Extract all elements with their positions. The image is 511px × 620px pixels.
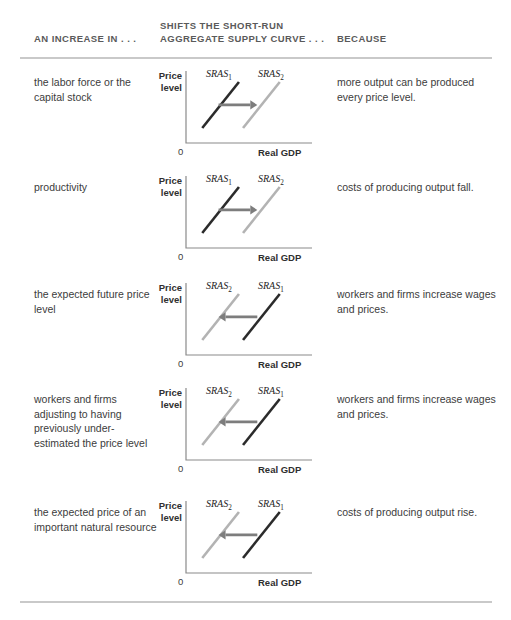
y-axis-label: Pricelevel <box>140 500 182 523</box>
because-cell: workers and firms increase wages and pri… <box>337 287 502 316</box>
header-col-shifts: SHIFTS THE SHORT-RUN AGGREGATE SUPPLY CU… <box>160 20 335 45</box>
curve-label-right: SRAS1 <box>258 498 284 512</box>
diagram-cell: Pricelevel0Real GDPSRAS1SRAS2 <box>140 67 325 167</box>
chart-axes <box>186 388 312 460</box>
curve-label-left: SRAS1 <box>206 68 232 82</box>
chart-axes <box>186 71 312 143</box>
y-axis-label: Pricelevel <box>140 282 182 305</box>
curve-label-right: SRAS2 <box>258 173 284 187</box>
diagram-cell: Pricelevel0Real GDPSRAS2SRAS1 <box>140 279 325 379</box>
shift-arrow <box>219 312 258 321</box>
y-axis-label: Pricelevel <box>140 387 182 410</box>
shift-arrow <box>219 530 258 539</box>
table-page: AN INCREASE IN . . . SHIFTS THE SHORT-RU… <box>0 0 511 620</box>
diagram-cell: Pricelevel0Real GDPSRAS1SRAS2 <box>140 172 325 272</box>
chart-axes <box>186 501 312 573</box>
curve-label-right: SRAS2 <box>258 68 284 82</box>
shift-arrow <box>219 417 258 426</box>
x-axis-label: Real GDP <box>258 464 301 475</box>
because-cell: more output can be produced every price … <box>337 75 502 104</box>
y-axis-label: Pricelevel <box>140 70 182 93</box>
header-divider <box>20 57 492 59</box>
header-col-increase: AN INCREASE IN . . . <box>34 33 154 46</box>
origin-label: 0 <box>178 576 183 587</box>
y-axis-label: Pricelevel <box>140 175 182 198</box>
curve-label-left: SRAS2 <box>206 280 232 294</box>
x-axis-label: Real GDP <box>258 252 301 263</box>
chart-axes <box>186 176 312 248</box>
curve-label-left: SRAS2 <box>206 385 232 399</box>
table-header: AN INCREASE IN . . . SHIFTS THE SHORT-RU… <box>0 0 511 58</box>
because-cell: costs of producing output fall. <box>337 180 502 195</box>
origin-label: 0 <box>178 251 183 262</box>
curve-label-left: SRAS2 <box>206 498 232 512</box>
because-cell: workers and firms increase wages and pri… <box>337 392 502 421</box>
chart-axes <box>186 283 312 355</box>
x-axis-label: Real GDP <box>258 359 301 370</box>
footer-divider <box>20 601 492 603</box>
curve-label-left: SRAS1 <box>206 173 232 187</box>
x-axis-label: Real GDP <box>258 577 301 588</box>
diagram-cell: Pricelevel0Real GDPSRAS2SRAS1 <box>140 384 325 484</box>
header-col-because: BECAUSE <box>337 33 497 46</box>
diagram-cell: Pricelevel0Real GDPSRAS2SRAS1 <box>140 497 325 597</box>
because-cell: costs of producing output rise. <box>337 505 502 520</box>
origin-label: 0 <box>178 358 183 369</box>
origin-label: 0 <box>178 463 183 474</box>
curve-label-right: SRAS1 <box>258 385 284 399</box>
curve-label-right: SRAS1 <box>258 280 284 294</box>
origin-label: 0 <box>178 146 183 157</box>
x-axis-label: Real GDP <box>258 147 301 158</box>
